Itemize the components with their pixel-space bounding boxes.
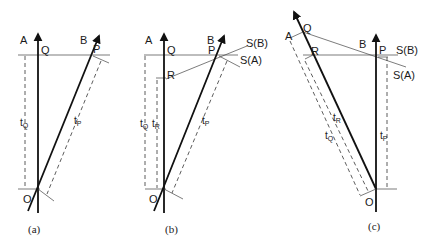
caption-c: (c)	[368, 220, 381, 233]
tp-interval	[172, 61, 227, 193]
panel-a: A B Q P O tQ tP (a)	[18, 34, 110, 236]
label-r: R	[167, 69, 175, 81]
caption-b: (b)	[165, 223, 178, 236]
label-q: Q	[303, 22, 312, 34]
label-sb: S(B)	[246, 37, 268, 49]
label-tp: tP	[380, 130, 388, 142]
label-tr: tR	[333, 112, 341, 124]
label-tr: tR	[152, 118, 160, 130]
label-b: B	[80, 34, 87, 46]
label-b: B	[359, 38, 366, 50]
label-q: Q	[41, 44, 50, 56]
label-p: P	[379, 44, 386, 56]
label-o: O	[149, 193, 158, 205]
label-sa: S(A)	[240, 54, 262, 66]
label-tq: tQ	[325, 130, 334, 143]
label-r: R	[311, 45, 319, 57]
label-p: P	[93, 43, 100, 55]
label-a: A	[20, 34, 28, 46]
label-o: O	[365, 196, 374, 208]
label-p: P	[208, 44, 215, 56]
label-a: A	[145, 34, 153, 46]
label-tp: tP	[74, 115, 82, 127]
label-a: A	[285, 30, 293, 42]
label-tp: tP	[202, 115, 210, 127]
tick-o	[38, 189, 54, 201]
tick-p	[219, 56, 240, 67]
label-q: Q	[167, 44, 176, 56]
tp-interval	[47, 61, 101, 194]
panel-b: A B Q R P S(B) S(A) O tQ tR tP (b)	[140, 34, 268, 236]
label-sa: S(A)	[393, 69, 415, 81]
tq-interval	[290, 41, 360, 195]
label-o: O	[23, 193, 32, 205]
panel-c: A B Q R P S(B) S(A) O tR tQ tP (c)	[285, 12, 418, 233]
tick-o	[164, 189, 183, 199]
caption-a: (a)	[28, 223, 41, 236]
label-tq: tQ	[140, 118, 149, 131]
tr-interval	[305, 61, 369, 193]
label-sb: S(B)	[396, 44, 418, 56]
label-tq: tQ	[20, 117, 29, 130]
simultaneity-line-sa	[166, 46, 247, 79]
simultaneity-diagram: A B Q P O tQ tP (a) A B Q R P S(B) S(A) …	[0, 0, 437, 244]
